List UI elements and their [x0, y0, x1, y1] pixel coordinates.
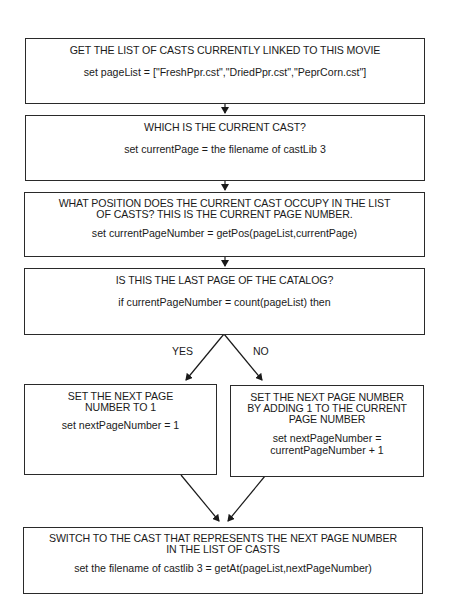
step-heading-line2: OF CASTS? THIS IS THE CURRENT PAGE NUMBE…: [25, 209, 424, 220]
step-heading-line3: PAGE NUMBER: [231, 414, 423, 425]
step-heading-line2: IN THE LIST OF CASTS: [24, 544, 422, 555]
arrow-yes-branch: [186, 334, 224, 380]
arrow-yes-to-final: [181, 475, 219, 521]
step-switch-cast: SWITCH TO THE CAST THAT REPRESENTS THE N…: [23, 527, 423, 594]
step-code: if currentPageNumber = count(pageList) t…: [25, 297, 424, 309]
step-increment-page-number: SET THE NEXT PAGE NUMBER BY ADDING 1 TO …: [230, 385, 424, 477]
no-label: NO: [253, 345, 269, 357]
yes-label: YES: [172, 345, 193, 357]
step-get-cast-list: GET THE LIST OF CASTS CURRENTLY LINKED T…: [25, 38, 425, 104]
step-is-last-page-decision: IS THIS THE LAST PAGE OF THE CATALOG? if…: [24, 268, 425, 335]
step-code: set nextPageNumber = 1: [25, 420, 216, 432]
step-code: set the filename of castlib 3 = getAt(pa…: [24, 563, 422, 575]
step-code-line2: currentPageNumber + 1: [231, 445, 423, 457]
step-heading: GET THE LIST OF CASTS CURRENTLY LINKED T…: [26, 45, 424, 56]
step-code-line1: set nextPageNumber =: [231, 433, 423, 445]
arrow-no-branch: [224, 334, 262, 380]
step-code: set pageList = ["FreshPpr.cst","DriedPpr…: [26, 67, 424, 79]
step-current-cast: WHICH IS THE CURRENT CAST? set currentPa…: [25, 115, 425, 181]
step-heading-line2: NUMBER TO 1: [25, 402, 216, 413]
step-code: set currentPageNumber = getPos(pageList,…: [25, 228, 424, 240]
step-heading: IS THIS THE LAST PAGE OF THE CATALOG?: [25, 275, 424, 286]
arrow-no-to-final: [228, 476, 265, 521]
step-current-page-number: WHAT POSITION DOES THE CURRENT CAST OCCU…: [24, 192, 425, 257]
step-heading: WHICH IS THE CURRENT CAST?: [26, 122, 424, 133]
step-set-next-page-to-one: SET THE NEXT PAGE NUMBER TO 1 set nextPa…: [24, 384, 217, 475]
step-code: set currentPage = the filename of castLi…: [26, 144, 424, 156]
